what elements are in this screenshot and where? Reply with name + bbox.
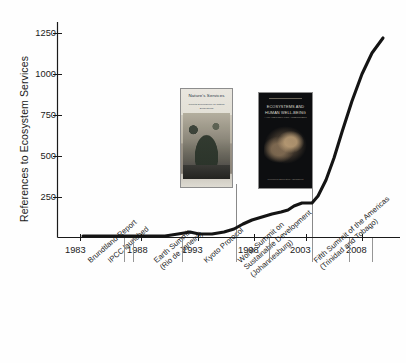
event-leader-lines-upper [237,184,313,237]
event-leader-lines-lower [125,238,373,262]
chart-plot-area [0,0,406,363]
chart-figure: References to Ecosystem Services 1250 10… [0,0,406,363]
data-series-references-to-ecosystem-services [83,38,383,236]
